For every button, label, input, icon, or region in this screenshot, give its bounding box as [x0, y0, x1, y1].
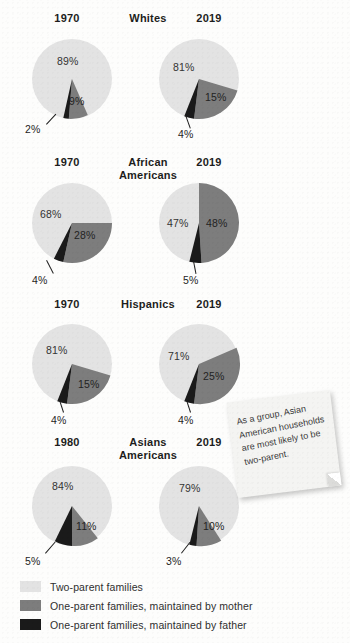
slice-value-label: 9% — [69, 95, 84, 107]
slice-value-label: 81% — [46, 344, 67, 356]
slice-value-label: 89% — [57, 55, 78, 67]
pie-graphic — [26, 177, 118, 269]
legend-swatch-icon — [20, 600, 41, 611]
pie-chart-asian-americans-1980: 84% 11% 5% — [26, 460, 118, 552]
slice-value-label: 10% — [203, 520, 224, 532]
pie-graphic — [153, 460, 245, 552]
pie-chart-asian-americans-2019: 79% 10% 3% — [153, 460, 245, 552]
chart-year-label: 1970 — [32, 298, 102, 311]
slice-value-label: 4% — [32, 274, 47, 286]
legend-item-father: One-parent families, maintained by fathe… — [20, 616, 340, 633]
slice-value-label: 3% — [166, 555, 181, 567]
pie-chart-african-americans-2019: 47% 48% 5% — [153, 177, 245, 269]
pie-chart-whites-1970: 89% 9% 2% — [26, 33, 118, 125]
slice-value-label: 84% — [52, 480, 73, 492]
slice-value-label: 25% — [203, 370, 224, 382]
pie-graphic — [153, 33, 245, 125]
legend-label: One-parent families, maintained by fathe… — [50, 619, 247, 631]
legend-item-mother: One-parent families, maintained by mothe… — [20, 597, 340, 614]
slice-value-label: 4% — [178, 414, 193, 426]
chart-year-label: 2019 — [174, 156, 244, 169]
pie-graphic — [26, 33, 118, 125]
slice-value-label: 15% — [78, 378, 99, 390]
legend-label: One-parent families, maintained by mothe… — [50, 600, 253, 612]
legend-label: Two-parent families — [50, 581, 143, 593]
slice-value-label: 68% — [40, 208, 61, 220]
pie-chart-african-americans-1970: 68% 28% 4% — [26, 177, 118, 269]
slice-value-label: 2% — [25, 123, 40, 135]
pie-chart-hispanics-1970: 81% 15% 4% — [26, 318, 118, 410]
chart-row-african-americans: 1970 African Americans 2019 68% 28% 4% — [0, 146, 350, 296]
chart-row-whites: 1970 Whites 2019 89% 9% 2% — [0, 0, 350, 150]
chart-year-label: 1980 — [32, 436, 102, 449]
slice-value-label: 81% — [173, 61, 194, 73]
slice-value-label: 47% — [167, 217, 188, 229]
slice-value-label: 79% — [179, 482, 200, 494]
slice-value-label: 4% — [178, 128, 193, 140]
pie-graphic — [26, 460, 118, 552]
chart-year-label: 1970 — [32, 12, 102, 25]
legend-item-two-parent: Two-parent families — [20, 578, 340, 595]
slice-value-label: 48% — [206, 217, 227, 229]
chart-year-label: 2019 — [174, 298, 244, 311]
pie-graphic — [26, 318, 118, 410]
callout-note-text: As a group, Asian American households ar… — [235, 399, 332, 469]
infographic-page: 1970 Whites 2019 89% 9% 2% — [0, 0, 350, 643]
slice-value-label: 11% — [76, 520, 97, 532]
page-fold-corner — [327, 472, 341, 486]
legend: Two-parent families One-parent families,… — [20, 578, 340, 635]
slice-value-label: 15% — [205, 91, 226, 103]
slice-value-label: 71% — [168, 350, 189, 362]
chart-year-label: 2019 — [174, 12, 244, 25]
slice-value-label: 5% — [25, 555, 40, 567]
chart-year-label: 1970 — [32, 156, 102, 169]
legend-swatch-icon — [20, 581, 41, 592]
pie-graphic — [153, 318, 245, 410]
legend-swatch-icon — [20, 619, 41, 630]
pie-chart-hispanics-2019: 71% 25% 4% — [153, 318, 245, 410]
slice-value-label: 5% — [183, 274, 198, 286]
slice-value-label: 28% — [74, 229, 95, 241]
pie-chart-whites-2019: 81% 15% 4% — [153, 33, 245, 125]
callout-note: As a group, Asian American households ar… — [227, 390, 342, 498]
slice-value-label: 4% — [51, 414, 66, 426]
